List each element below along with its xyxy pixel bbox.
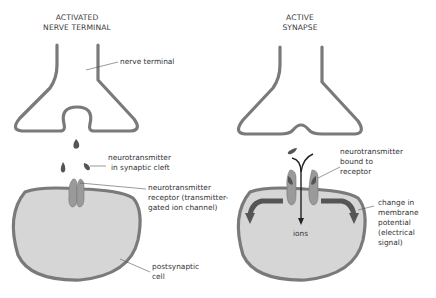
neurotransmitter-icon	[84, 163, 90, 170]
label-nt-cleft-2: in synaptic cleft	[111, 163, 170, 172]
label-nerve-terminal: nerve terminal	[120, 57, 174, 66]
label-receptor-3: gated ion channel)	[148, 203, 218, 212]
leader-line	[318, 167, 340, 178]
neurotransmitter-icon	[288, 148, 297, 154]
label-receptor-2: receptor (transmitter-	[148, 193, 229, 202]
neurotransmitter-icon	[73, 139, 79, 149]
leader-line	[86, 62, 118, 70]
label-ions: ions	[293, 229, 308, 238]
label-nt-cleft-1: neurotransmitter	[108, 153, 172, 162]
label-change-5: signal)	[378, 238, 403, 247]
panel-activated-nerve-terminal: ACTIVATED NERVE TERMINAL nerve terminal …	[13, 13, 228, 281]
label-change-2: membrane	[378, 208, 419, 217]
panel-title-line2: SYNAPSE	[282, 23, 317, 32]
panel-active-synapse: ACTIVE SYNAPSE ions neurotransmitter b	[238, 13, 419, 280]
panel-title-line1: ACTIVATED	[56, 13, 99, 22]
panel-title-line1: ACTIVE	[286, 13, 314, 22]
label-bound-3: receptor	[340, 167, 372, 176]
label-cell-2: cell	[152, 272, 165, 281]
label-bound-2: bound to	[340, 157, 374, 166]
label-bound-1: neurotransmitter	[340, 147, 404, 156]
synapse-diagram: ACTIVATED NERVE TERMINAL nerve terminal …	[0, 0, 436, 298]
label-receptor-1: neurotransmitter	[148, 183, 212, 192]
label-change-1: change in	[378, 198, 415, 207]
label-change-3: potential	[378, 218, 411, 227]
label-cell-1: postsynaptic	[152, 262, 199, 271]
label-change-4: (electrical	[378, 228, 415, 237]
nerve-terminal-outline	[238, 47, 361, 134]
neurotransmitter-icon	[61, 162, 66, 173]
panel-title-line2: NERVE TERMINAL	[43, 23, 111, 32]
